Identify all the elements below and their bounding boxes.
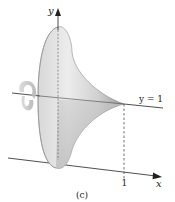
line-y-equals-1-label: y = 1 [138, 94, 163, 104]
figure-svg: y x 1 y = 1 (c) [0, 0, 175, 202]
x-tick-1-label: 1 [122, 178, 128, 188]
rotation-arrow-icon [19, 81, 37, 110]
x-axis [8, 158, 162, 179]
surface-of-revolution-figure: y x 1 y = 1 (c) [0, 0, 175, 202]
y-axis-arrowhead-icon [55, 8, 61, 16]
figure-caption: (c) [76, 190, 88, 200]
horn-surface [38, 27, 124, 169]
x-axis-label: x [156, 178, 162, 189]
y-axis-label: y [47, 5, 54, 16]
